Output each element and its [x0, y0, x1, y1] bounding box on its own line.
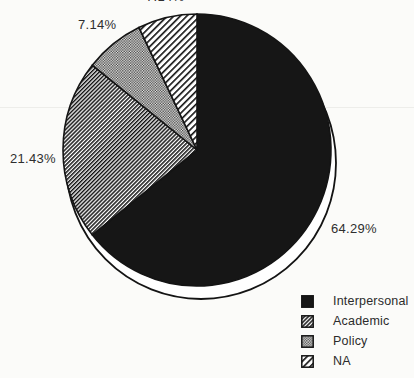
slice-value-label-na: 7.14%	[146, 0, 184, 4]
legend-label-na: NA	[333, 354, 351, 368]
legend-item-academic: Academic	[301, 311, 409, 331]
legend-label-interpersonal: Interpersonal	[333, 294, 409, 308]
legend-swatch-academic	[301, 315, 314, 328]
legend-swatch-policy	[301, 335, 314, 348]
legend-item-policy: Policy	[301, 331, 409, 351]
pie-slices	[63, 14, 331, 286]
legend-item-na: NA	[301, 351, 409, 371]
legend-label-policy: Policy	[333, 334, 368, 348]
pie-chart-figure: 7.14% 7.14% 21.43% 64.29% Interpersonal …	[0, 0, 414, 378]
slice-value-label-policy: 7.14%	[78, 17, 116, 32]
legend-item-interpersonal: Interpersonal	[301, 291, 409, 311]
legend-label-academic: Academic	[333, 314, 389, 328]
slice-value-label-interpersonal: 64.29%	[331, 221, 377, 236]
slice-value-label-academic: 21.43%	[10, 151, 56, 166]
legend-swatch-interpersonal	[301, 295, 314, 308]
legend: Interpersonal Academic Policy NA	[301, 291, 409, 371]
legend-swatch-na	[301, 355, 314, 368]
